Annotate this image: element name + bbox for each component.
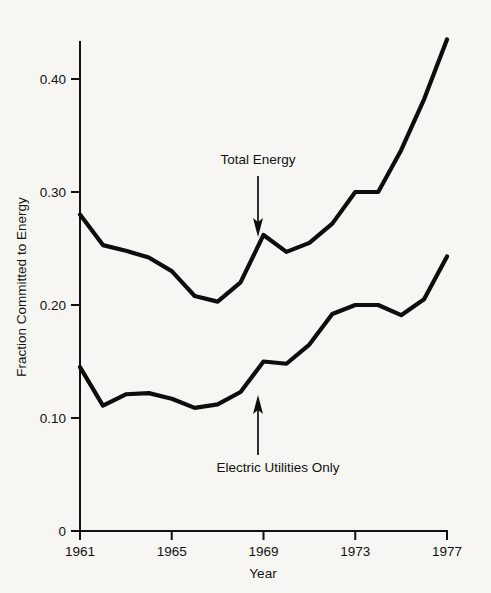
line-chart: 00.100.200.300.40 19611965196919731977 F… [0, 0, 491, 593]
series-line-electric-utilities-only [80, 256, 447, 407]
y-tick-label: 0.40 [40, 72, 66, 87]
x-axis-ticks: 19611965196919731977 [65, 531, 462, 559]
annotation-electric-utilities-label: Electric Utilities Only [216, 460, 339, 475]
y-tick-label: 0.30 [40, 185, 66, 200]
y-tick-label: 0.20 [40, 298, 66, 313]
x-axis-title: Year [249, 566, 277, 581]
y-tick-label: 0.10 [40, 411, 66, 426]
y-axis-title: Fraction Committed to Energy [14, 197, 29, 377]
series-line-total-energy [80, 39, 447, 301]
x-tick-label: 1961 [65, 544, 95, 559]
x-tick-label: 1969 [248, 544, 278, 559]
y-axis-ticks: 00.100.200.300.40 [40, 72, 80, 539]
annotation-total-energy-label: Total Energy [220, 152, 295, 167]
annotation-total-energy: Total Energy [220, 152, 295, 237]
x-tick-label: 1973 [340, 544, 370, 559]
y-tick-label: 0 [58, 524, 66, 539]
x-tick-label: 1977 [432, 544, 462, 559]
annotation-electric-utilities: Electric Utilities Only [216, 395, 339, 475]
series-group [80, 39, 447, 407]
chart-figure: 00.100.200.300.40 19611965196919731977 F… [0, 0, 491, 593]
x-tick-label: 1965 [157, 544, 187, 559]
